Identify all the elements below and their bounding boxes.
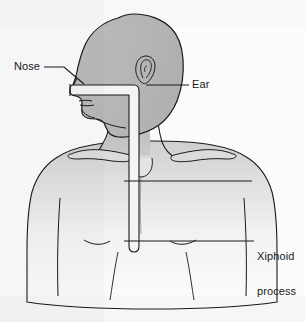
label-xiphoid: Xiphoid process <box>257 228 296 320</box>
label-nose: Nose <box>14 61 40 73</box>
head-profile <box>71 14 184 137</box>
label-xiphoid-line2: process <box>257 286 296 298</box>
label-xiphoid-line1: Xiphoid <box>257 251 296 263</box>
anatomy-figure: Nose Ear Xiphoid process <box>0 0 305 322</box>
label-ear: Ear <box>192 79 209 91</box>
head-group <box>70 14 184 137</box>
